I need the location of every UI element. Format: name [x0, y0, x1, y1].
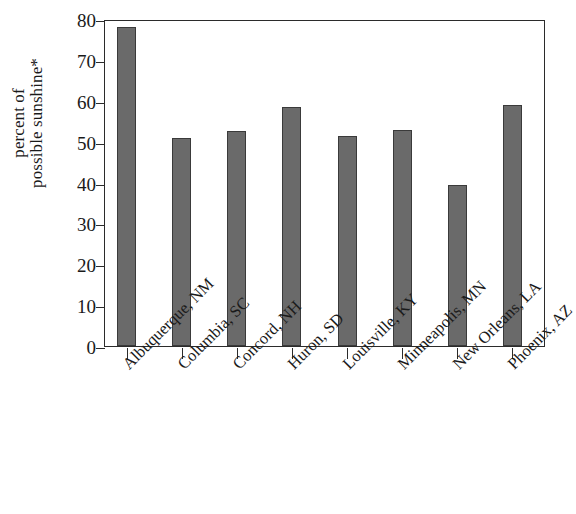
y-axis-tick-mark [96, 307, 105, 308]
y-axis-tick-labels: 01020304050607080 [44, 0, 96, 514]
y-axis-tick-mark [96, 225, 105, 226]
y-axis-tick-mark [96, 144, 105, 145]
y-axis-tick-label: 30 [56, 215, 96, 234]
y-axis-tick-mark [96, 266, 105, 267]
y-axis-tick-label: 40 [56, 174, 96, 193]
y-axis-tick-mark [96, 62, 105, 63]
y-axis-tick-label: 50 [56, 133, 96, 152]
y-axis-tick-mark [96, 21, 105, 22]
bar [117, 27, 136, 346]
y-axis-tick-mark [96, 348, 105, 349]
y-axis-tick-label: 60 [56, 92, 96, 111]
y-axis-tick-label: 80 [56, 11, 96, 30]
y-axis-tick-mark [96, 103, 105, 104]
y-axis-tick-label: 20 [56, 256, 96, 275]
y-axis-tick-label: 0 [56, 338, 96, 357]
y-axis-tick-label: 70 [56, 51, 96, 70]
y-axis-tick-mark [96, 185, 105, 186]
y-axis-title-line-1: percent of [10, 0, 28, 248]
y-axis-tick-label: 10 [56, 297, 96, 316]
